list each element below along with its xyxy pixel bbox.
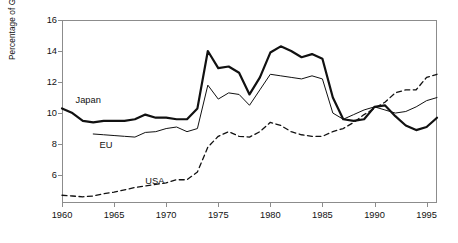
chart-figure: Percentage of GDP (current prices) 68101… xyxy=(0,0,458,243)
y-tick-label-16: 16 xyxy=(47,15,57,25)
series-lines xyxy=(62,20,437,203)
x-tick-mark xyxy=(375,203,376,207)
y-tick-label-8: 8 xyxy=(52,139,57,149)
x-tick-label-1960: 1960 xyxy=(52,210,73,220)
x-tick-mark xyxy=(427,203,428,207)
x-tick-label-1985: 1985 xyxy=(312,210,333,220)
series-label-eu: EU xyxy=(100,140,113,150)
x-tick-label-1980: 1980 xyxy=(260,210,281,220)
x-tick-label-1990: 1990 xyxy=(364,210,385,220)
y-tick-label-10: 10 xyxy=(47,108,57,118)
series-line-japan xyxy=(62,46,437,130)
series-label-usa: USA xyxy=(145,176,164,186)
x-tick-mark xyxy=(62,203,63,207)
x-tick-mark xyxy=(114,203,115,207)
x-tick-label-1995: 1995 xyxy=(416,210,437,220)
plot-area: Percentage of GDP (current prices) 68101… xyxy=(62,20,437,203)
x-tick-label-1975: 1975 xyxy=(208,210,229,220)
y-tick-label-14: 14 xyxy=(47,46,57,56)
y-tick-label-12: 12 xyxy=(47,77,57,87)
series-label-japan: Japan xyxy=(76,95,101,105)
x-tick-mark xyxy=(322,203,323,207)
y-axis-label: Percentage of GDP (current prices) xyxy=(8,0,17,60)
x-tick-label-1970: 1970 xyxy=(156,210,177,220)
x-tick-label-1965: 1965 xyxy=(104,210,125,220)
x-tick-mark xyxy=(166,203,167,207)
y-tick-label-6: 6 xyxy=(52,170,57,180)
x-tick-mark xyxy=(218,203,219,207)
x-tick-mark xyxy=(270,203,271,207)
